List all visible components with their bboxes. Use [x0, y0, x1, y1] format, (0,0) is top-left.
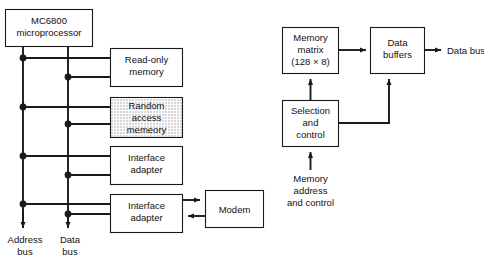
- interface-adapter-1-block: Interface adapter: [111, 147, 183, 185]
- cpu-block: MC6800 microprocessor: [6, 10, 93, 47]
- memory-address-control-label: Memory address and control: [287, 173, 334, 208]
- data-buffers-block: Data buffers: [371, 28, 425, 74]
- junction-data-ram: [65, 121, 72, 128]
- rom-label-line1: Read-only: [125, 54, 169, 65]
- interface-adapter-1-label-line2: adapter: [130, 164, 162, 175]
- ram-block: Random access memeory: [111, 98, 183, 138]
- interface-adapter-2-label-line1: Interface: [128, 200, 165, 211]
- databus-output-label: Data bus: [447, 45, 484, 56]
- memory-matrix-label-line2: matrix: [298, 44, 324, 55]
- ram-label-line3: memeory: [127, 124, 167, 135]
- junction-data-rom: [65, 74, 72, 81]
- junction-data-ia2: [65, 211, 72, 218]
- memory-matrix-label-line1: Memory: [293, 32, 328, 43]
- block-diagram: MC6800 microprocessor Read-on: [0, 0, 484, 258]
- selection-and-control-block: Selection and control: [283, 101, 339, 147]
- ram-label-line2: access: [132, 112, 162, 123]
- address-bus-label: Address bus: [8, 234, 43, 257]
- rom-label-line2: memory: [129, 66, 164, 77]
- diagram-canvas: MC6800 microprocessor Read-on: [0, 0, 484, 258]
- selection-and-control-label-line3: control: [296, 129, 325, 140]
- memory-matrix-block: Memory matrix (128 × 8): [283, 28, 339, 74]
- data-bus-label: Data bus: [60, 234, 81, 257]
- memory-address-control-label-line2: address: [294, 185, 328, 196]
- control-to-buffers-link: [339, 79, 390, 123]
- address-bus-label-line2: bus: [17, 246, 33, 257]
- data-buffers-label-line2: buffers: [383, 49, 412, 60]
- cpu-label-line1: MC6800: [31, 15, 67, 26]
- data-bus-label-line1: Data: [60, 234, 81, 245]
- selection-and-control-label-line2: and: [303, 117, 319, 128]
- junction-data-ia1: [65, 172, 72, 179]
- junction-address-ia1: [20, 153, 27, 160]
- rom-block: Read-only memory: [111, 49, 183, 87]
- interface-adapter-2-block: Interface adapter: [111, 195, 183, 233]
- cpu-label-line2: microprocessor: [17, 27, 82, 38]
- memory-matrix-label-line3: (128 × 8): [291, 56, 329, 67]
- data-buffers-label-line1: Data: [387, 37, 408, 48]
- junction-address-ia2: [20, 201, 27, 208]
- interface-adapter-1-label-line1: Interface: [128, 152, 165, 163]
- memory-address-control-label-line1: Memory: [293, 173, 328, 184]
- junction-address-rom: [20, 55, 27, 62]
- selection-and-control-label-line1: Selection: [291, 105, 330, 116]
- ram-label-line1: Random: [129, 100, 165, 111]
- junction-address-ram: [20, 104, 27, 111]
- data-bus-label-line2: bus: [62, 246, 78, 257]
- interface-adapter-2-label-line2: adapter: [130, 212, 162, 223]
- memory-address-control-label-line3: and control: [287, 197, 334, 208]
- modem-label: Modem: [219, 204, 251, 215]
- address-bus-label-line1: Address: [8, 234, 43, 245]
- modem-block: Modem: [206, 191, 264, 228]
